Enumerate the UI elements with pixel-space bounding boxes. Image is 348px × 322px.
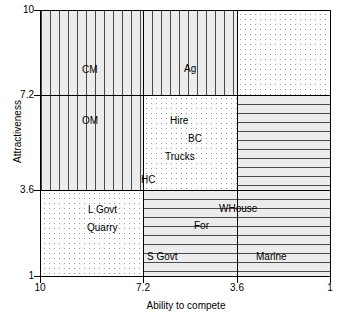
matrix-cell-bottom-left [41,190,143,276]
data-label-for: For [194,220,209,231]
y-tick-label-3-6: 3.6 [0,185,34,195]
data-label-whouse: WHouse [219,203,257,214]
x-tick-label-1: 1 [310,283,348,293]
data-label-hc: HC [141,174,155,185]
data-label-marine: Marine [256,251,287,262]
divider-vertical-7-2 [143,11,144,276]
data-label-lgovt: L Govt [88,204,117,215]
data-label-sgovt: S Govt [147,251,178,262]
y-tick-label-1: 1 [0,271,34,281]
x-tick-label-7-2: 7.2 [123,283,163,293]
data-label-bc: BC [188,133,202,144]
x-tick-label-3-6: 3.6 [217,283,257,293]
x-tick-label-10: 10 [20,283,60,293]
y-tick-label-10: 10 [0,5,34,15]
matrix-cell-middle-right [237,95,330,190]
matrix-cell-top-right [237,11,330,95]
x-tick-mark-10 [40,277,41,283]
data-label-cm: CM [82,64,98,75]
data-label-quarry: Quarry [87,222,118,233]
data-label-om: OM [82,115,98,126]
plot-area: CM Ag OM Hire BC Trucks HC L Govt Quarry… [40,10,331,277]
x-tick-mark-1 [330,277,331,283]
data-label-hire: Hire [170,115,188,126]
x-tick-mark-3-6 [237,277,238,283]
matrix-cell-middle-left [41,95,143,190]
divider-vertical-3-6 [237,11,238,276]
matrix-cell-top-left [41,11,143,95]
divider-horizontal-3-6 [41,190,330,191]
y-tick-label-7-2: 7.2 [0,90,34,100]
x-axis-title: Ability to compete [40,300,332,311]
data-label-trucks: Trucks [165,151,195,162]
matrix-cell-top-middle [143,11,237,95]
divider-horizontal-7-2 [41,95,330,96]
x-tick-mark-7-2 [143,277,144,283]
directional-policy-matrix-chart: Attractiveness 10 7.2 3.6 1 Ability to c… [0,0,348,322]
data-label-ag: Ag [184,63,196,74]
